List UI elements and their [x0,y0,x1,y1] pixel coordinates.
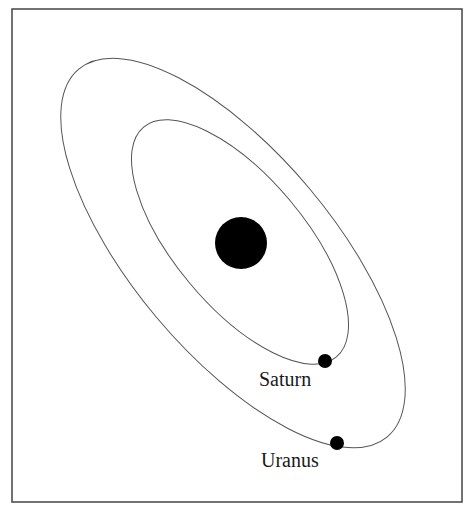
uranus-label: Uranus [261,449,319,471]
uranus-planet [330,436,344,450]
sun [215,217,267,269]
saturn-label: Saturn [259,368,311,390]
orbital-diagram: Saturn Uranus [0,0,465,515]
saturn-planet [318,354,332,368]
